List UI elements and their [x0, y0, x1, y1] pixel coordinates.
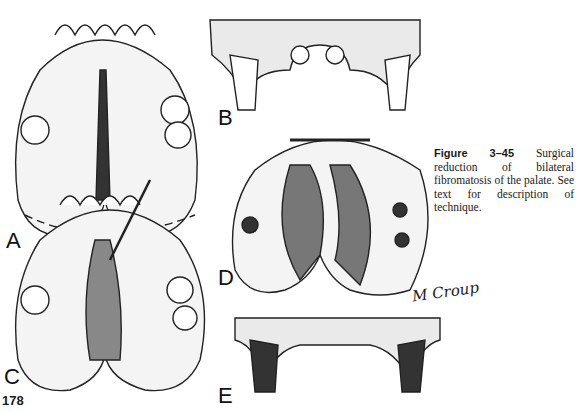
page-number: 178: [2, 393, 24, 408]
panel-label-b: B: [218, 105, 233, 131]
figure-number: Figure 3–45: [434, 147, 514, 159]
panel-e-cross-section: [235, 318, 440, 392]
panel-label-e: E: [218, 383, 233, 409]
panel-label-a: A: [6, 228, 21, 254]
panel-d-sutured: [233, 140, 429, 295]
panel-label-d: D: [218, 265, 234, 291]
panel-b-cross-section: [210, 20, 420, 110]
figure-caption: Figure 3–45 Surgical reduction of bilate…: [434, 147, 574, 215]
panel-label-c: C: [4, 364, 20, 390]
